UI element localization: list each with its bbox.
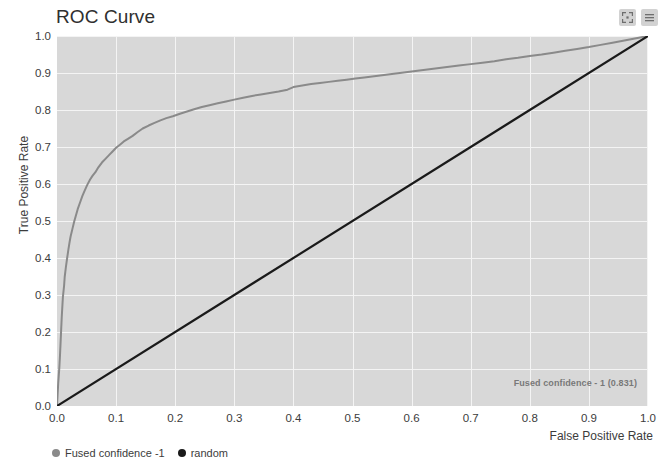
plot-curves — [57, 36, 648, 406]
legend-label: random — [191, 447, 228, 459]
x-tick-label: 0.0 — [27, 412, 87, 424]
legend-marker-icon — [178, 449, 186, 457]
x-tick-label: 0.9 — [559, 412, 619, 424]
chart-title: ROC Curve — [56, 6, 155, 28]
x-axis-ticks: 0.00.10.20.30.40.50.60.70.80.91.0 — [57, 412, 648, 428]
menu-icon — [644, 12, 655, 23]
y-axis-title: True Positive Rate — [17, 115, 31, 255]
x-axis-title: False Positive Rate — [550, 429, 653, 443]
x-tick-label: 1.0 — [618, 412, 667, 424]
x-tick-label: 0.3 — [204, 412, 264, 424]
y-tick-label: 0.1 — [3, 363, 51, 375]
curve-auc-annotation: Fused confidence - 1 (0.831) — [514, 378, 637, 388]
fullscreen-button[interactable] — [619, 9, 636, 26]
x-tick-label: 0.2 — [145, 412, 205, 424]
y-tick-label: 0.9 — [3, 67, 51, 79]
roc-chart: ROC Curve — [0, 0, 667, 468]
y-tick-label: 0.3 — [3, 289, 51, 301]
x-tick-label: 0.6 — [382, 412, 442, 424]
x-tick-label: 0.1 — [86, 412, 146, 424]
legend-label: Fused confidence -1 — [65, 447, 165, 459]
y-tick-label: 0.0 — [3, 400, 51, 412]
legend-item[interactable]: Fused confidence -1 — [52, 447, 165, 459]
x-tick-label: 0.5 — [323, 412, 383, 424]
plot-area: Fused confidence - 1 (0.831) — [57, 36, 648, 406]
chart-legend: Fused confidence -1random — [0, 447, 280, 459]
legend-marker-icon — [52, 449, 60, 457]
x-tick-label: 0.4 — [263, 412, 323, 424]
fullscreen-icon — [622, 12, 633, 23]
menu-button[interactable] — [641, 9, 658, 26]
y-tick-label: 0.2 — [3, 326, 51, 338]
x-tick-label: 0.7 — [441, 412, 501, 424]
series-line — [57, 36, 648, 406]
y-tick-label: 1.0 — [3, 30, 51, 42]
legend-item[interactable]: random — [178, 447, 228, 459]
x-tick-label: 0.8 — [500, 412, 560, 424]
chart-controls — [619, 9, 658, 26]
